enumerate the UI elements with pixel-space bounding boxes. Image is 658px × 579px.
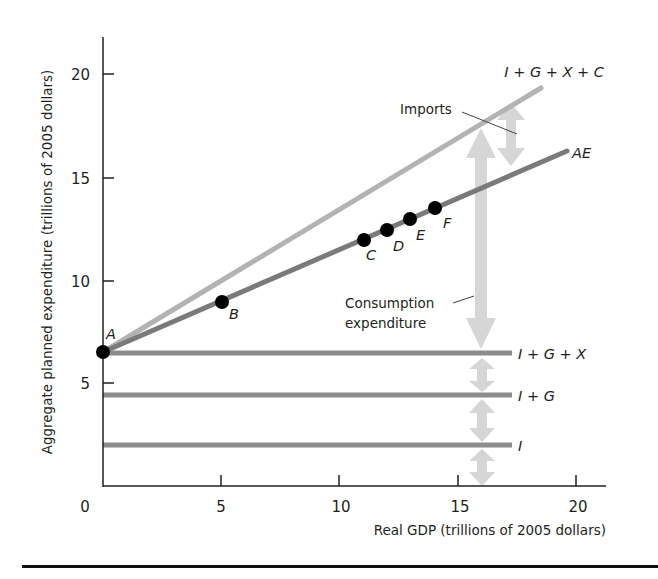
label-ae: AE — [571, 145, 592, 161]
consumption-label-line2: expenditure — [345, 315, 426, 331]
point-label-c: C — [366, 247, 377, 263]
y-tick-label-5: 5 — [80, 375, 90, 393]
x-tick-label-15: 15 — [450, 498, 469, 516]
investment-arrow-icon — [469, 449, 495, 486]
x-tick-label-20: 20 — [568, 498, 587, 516]
horizontal-lines — [103, 353, 512, 445]
consumption-leader-line — [453, 296, 474, 303]
point-label-f: F — [443, 215, 452, 231]
imports-label: Imports — [400, 101, 452, 117]
x-tick-label-0: 0 — [80, 498, 90, 516]
consumption-label-line1: Consumption — [345, 295, 434, 311]
point-e — [403, 212, 417, 226]
point-label-b: B — [229, 306, 239, 322]
government-arrow-icon — [469, 399, 495, 442]
y-tick-label-10: 10 — [71, 273, 90, 291]
point-c — [357, 233, 371, 247]
chart: 20 15 10 5 0 5 10 15 20 Real GDP (trilli… — [0, 0, 658, 579]
bottom-rule — [22, 565, 658, 568]
x-axis-title: Real GDP (trillions of 2005 dollars) — [374, 522, 606, 538]
point-f — [428, 201, 442, 215]
point-b — [215, 295, 229, 309]
axes — [103, 37, 606, 487]
consumption-arrow-icon — [466, 128, 496, 349]
label-i-plus-g-plus-x-plus-c: I + G + X + C — [504, 64, 605, 80]
point-a — [96, 345, 110, 359]
point-label-d: D — [393, 238, 404, 254]
x-tick-label-5: 5 — [216, 498, 226, 516]
point-label-a: A — [105, 326, 116, 342]
exports-arrow-icon — [469, 358, 495, 392]
component-arrows — [466, 103, 525, 486]
point-label-e: E — [416, 227, 426, 243]
y-tick-label-20: 20 — [71, 66, 90, 84]
x-tick-label-10: 10 — [331, 498, 350, 516]
label-i-plus-g: I + G — [518, 388, 555, 404]
line-ae — [103, 151, 567, 352]
y-tick-label-15: 15 — [71, 170, 90, 188]
label-i-plus-g-plus-x: I + G + X — [518, 346, 587, 362]
label-i: I — [518, 438, 522, 454]
y-axis-title: Aggregate planned expenditure (trillions… — [39, 70, 55, 455]
point-d — [380, 223, 394, 237]
